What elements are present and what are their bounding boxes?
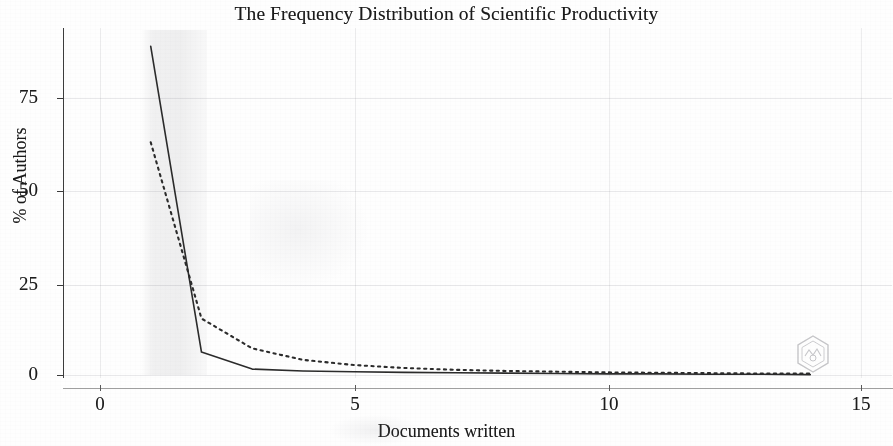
gridline-y-50 [64, 191, 892, 192]
y-tick-mark-0 [57, 375, 63, 376]
y-axis-label: % of Authors [10, 96, 31, 256]
gridline-y-0 [64, 375, 892, 376]
series-plot [0, 0, 893, 446]
x-tick-mark-15 [861, 385, 862, 391]
series-solid-observed [151, 46, 811, 374]
y-tick-mark-75 [57, 98, 63, 99]
x-tick-label-15: 15 [831, 393, 891, 415]
gridline-x-15 [861, 28, 862, 378]
x-axis-spine [63, 388, 893, 389]
x-tick-mark-10 [609, 385, 610, 391]
scan-blotch [250, 180, 370, 290]
x-tick-mark-0 [100, 385, 101, 391]
y-tick-label-75: 75 [0, 86, 38, 108]
y-tick-label-0: 0 [0, 363, 38, 385]
x-axis-label: Documents written [0, 421, 893, 442]
scan-noise-overlay [0, 0, 893, 446]
chart-figure: The Frequency Distribution of Scientific… [0, 0, 893, 446]
y-tick-label-25: 25 [0, 273, 38, 295]
gridline-x-10 [609, 28, 610, 378]
x-tick-label-5: 5 [325, 393, 385, 415]
scan-shading-band [141, 30, 207, 375]
y-tick-mark-25 [57, 285, 63, 286]
y-axis-spine [63, 28, 64, 378]
series-dotted-lotka [151, 142, 811, 373]
chart-title: The Frequency Distribution of Scientific… [0, 3, 893, 25]
hexagon-stamp-watermark-icon [793, 334, 833, 374]
gridline-x-5 [355, 28, 356, 378]
x-tick-mark-5 [355, 385, 356, 391]
gridline-y-75 [64, 98, 892, 99]
gridline-y-25 [64, 285, 892, 286]
x-tick-label-10: 10 [579, 393, 639, 415]
y-tick-label-50: 50 [0, 179, 38, 201]
x-tick-label-0: 0 [70, 393, 130, 415]
y-tick-mark-50 [57, 191, 63, 192]
gridline-x-0 [100, 28, 101, 378]
